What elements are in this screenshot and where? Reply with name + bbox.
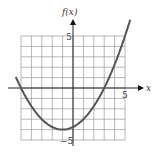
y-tick-neg5: −5 <box>60 136 74 146</box>
y-axis-arrow-icon <box>70 19 76 25</box>
y-axis-label: f(x) <box>61 7 78 17</box>
x-tick-5: 5 <box>122 90 128 100</box>
x-axis-arrow-icon <box>138 85 144 91</box>
x-axis-label: x <box>146 83 151 93</box>
y-tick-5: 5 <box>66 32 72 42</box>
function-graph: f(x) x 5 5 −5 <box>0 0 153 153</box>
